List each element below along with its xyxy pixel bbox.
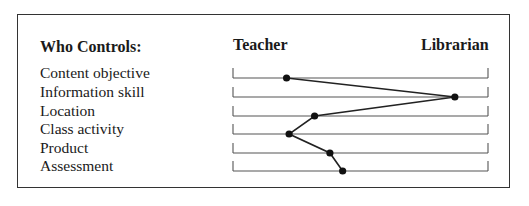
scale-row	[233, 143, 488, 153]
scale-row	[233, 68, 488, 78]
data-point-marker	[311, 112, 318, 119]
data-point-marker	[283, 74, 290, 81]
control-scale-plot	[0, 0, 529, 206]
data-point-marker	[286, 130, 293, 137]
data-point-marker	[326, 149, 333, 156]
scale-row	[233, 124, 488, 134]
scale-row	[233, 106, 488, 116]
scale-row	[233, 161, 488, 171]
profile-line	[287, 78, 455, 171]
scale-row	[233, 87, 488, 97]
data-point-marker	[451, 93, 458, 100]
data-point-marker	[339, 167, 346, 174]
